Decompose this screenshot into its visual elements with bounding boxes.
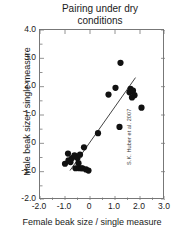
- x-tick-label: 3.0: [151, 202, 177, 211]
- chart-figure: Pairing under dry conditions 4.0 3.0 2.0…: [0, 0, 181, 236]
- data-points: [62, 60, 145, 174]
- data-point: [85, 167, 91, 173]
- data-point: [116, 124, 122, 130]
- scatter-plot-canvas: [40, 30, 165, 200]
- axis-minor-ticks: [40, 44, 153, 200]
- data-point: [117, 60, 123, 66]
- y-axis-title: Male beak size / single measure: [23, 32, 32, 192]
- data-point: [131, 92, 137, 98]
- chart-title: Pairing under dry conditions: [30, 3, 170, 26]
- data-point: [138, 105, 144, 111]
- x-tick-label: 2.0: [126, 202, 152, 211]
- data-point: [81, 144, 87, 150]
- data-point: [112, 85, 118, 91]
- credit-text: S.K. Huber et al. 2007: [126, 95, 132, 165]
- x-tick-label: 1.0: [101, 202, 127, 211]
- x-tick-label: 0: [76, 202, 102, 211]
- plot-area: [39, 29, 164, 199]
- x-tick-label: -2.0: [26, 202, 52, 211]
- x-tick-label: -1.0: [51, 202, 77, 211]
- data-point: [105, 92, 111, 98]
- x-axis-tick-labels: -2.0 -1.0 0 1.0 2.0 3.0: [39, 202, 164, 214]
- axis-major-ticks: [40, 30, 165, 200]
- y-tick-label: 4.0: [6, 25, 36, 34]
- data-point: [95, 130, 101, 136]
- x-axis-title: Female beak size / single measure: [8, 218, 176, 227]
- data-point: [77, 152, 83, 158]
